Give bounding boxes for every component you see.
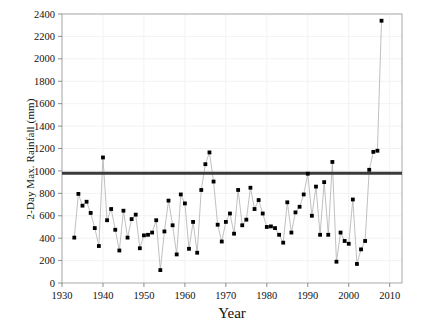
data-point-marker	[208, 151, 212, 155]
data-point-marker	[261, 212, 265, 216]
x-tick-label: 1980	[256, 290, 277, 301]
data-point-marker	[285, 200, 289, 204]
data-point-marker	[199, 188, 203, 192]
y-axis-ticks: 0200400600800100012001400160018002000220…	[34, 9, 62, 289]
data-point-marker	[138, 246, 142, 250]
data-point-marker	[224, 220, 228, 224]
data-point-marker	[351, 198, 355, 202]
data-point-marker	[318, 233, 322, 237]
data-point-marker	[376, 149, 380, 153]
data-point-marker	[359, 247, 363, 251]
data-point-marker	[171, 223, 175, 227]
data-point-marker	[113, 228, 117, 232]
x-tick-label: 2010	[379, 290, 400, 301]
data-point-markers	[72, 19, 383, 272]
data-point-marker	[76, 192, 80, 196]
grid-lines	[62, 14, 402, 283]
data-point-marker	[187, 247, 191, 251]
chart-figure: 2-Day Max. Rainfall (mm) Year 0200400600…	[0, 0, 428, 332]
data-point-marker	[183, 202, 187, 206]
data-point-marker	[273, 226, 277, 230]
data-point-marker	[93, 226, 97, 230]
data-point-marker	[134, 213, 138, 217]
data-point-marker	[244, 218, 248, 222]
data-point-marker	[314, 185, 318, 189]
data-point-marker	[146, 233, 150, 237]
data-point-marker	[220, 240, 224, 244]
data-point-marker	[265, 225, 269, 229]
y-tick-label: 1000	[34, 166, 55, 177]
data-point-marker	[253, 207, 257, 211]
data-point-marker	[150, 231, 154, 235]
data-point-marker	[302, 193, 306, 197]
data-point-marker	[72, 236, 76, 240]
data-point-marker	[216, 223, 220, 227]
x-tick-label: 1950	[133, 290, 154, 301]
y-tick-label: 0	[50, 278, 55, 289]
data-series-line	[74, 21, 381, 270]
series-polyline	[74, 21, 381, 270]
data-point-marker	[367, 168, 371, 172]
data-point-marker	[154, 218, 158, 222]
y-tick-label: 2000	[34, 53, 55, 64]
data-point-marker	[322, 180, 326, 184]
y-tick-label: 600	[39, 210, 55, 221]
x-tick-label: 1940	[92, 290, 113, 301]
data-point-marker	[294, 210, 298, 214]
y-tick-label: 1200	[34, 143, 55, 154]
data-point-marker	[380, 19, 384, 23]
data-point-marker	[335, 260, 339, 264]
data-point-marker	[290, 231, 294, 235]
data-point-marker	[97, 244, 101, 248]
x-tick-label: 1970	[215, 290, 236, 301]
data-point-marker	[310, 214, 314, 218]
data-point-marker	[158, 268, 162, 272]
data-point-marker	[326, 233, 330, 237]
data-point-marker	[240, 223, 244, 227]
data-point-marker	[175, 253, 179, 257]
data-point-marker	[105, 218, 109, 222]
data-point-marker	[89, 211, 93, 215]
x-tick-label: 2000	[338, 290, 359, 301]
data-point-marker	[179, 193, 183, 197]
data-point-marker	[122, 209, 126, 213]
rainfall-time-series-plot: 0200400600800100012001400160018002000220…	[0, 0, 428, 332]
data-point-marker	[130, 217, 134, 221]
x-axis-ticks: 193019401950196019701980199020002010	[52, 283, 401, 301]
data-point-marker	[281, 241, 285, 245]
data-point-marker	[203, 162, 207, 166]
x-tick-label: 1960	[174, 290, 195, 301]
data-point-marker	[339, 231, 343, 235]
data-point-marker	[142, 233, 146, 237]
y-tick-label: 1400	[34, 121, 55, 132]
data-point-marker	[81, 204, 85, 208]
data-point-marker	[363, 239, 367, 243]
data-point-marker	[101, 156, 105, 160]
data-point-marker	[167, 199, 171, 203]
data-point-marker	[347, 242, 351, 246]
data-point-marker	[117, 249, 121, 253]
data-point-marker	[236, 188, 240, 192]
data-point-marker	[371, 150, 375, 154]
data-point-marker	[249, 186, 253, 190]
data-point-marker	[277, 233, 281, 237]
x-tick-label: 1930	[52, 290, 73, 301]
data-point-marker	[232, 232, 236, 236]
data-point-marker	[191, 220, 195, 224]
data-point-marker	[195, 251, 199, 255]
data-point-marker	[298, 205, 302, 209]
data-point-marker	[212, 180, 216, 184]
y-tick-label: 1800	[34, 76, 55, 87]
data-point-marker	[126, 236, 130, 240]
y-tick-label: 2200	[34, 31, 55, 42]
y-tick-label: 2400	[34, 9, 55, 20]
data-point-marker	[355, 262, 359, 266]
data-point-marker	[109, 207, 113, 211]
data-point-marker	[228, 212, 232, 216]
data-point-marker	[257, 198, 261, 202]
y-tick-label: 400	[39, 233, 55, 244]
x-tick-label: 1990	[297, 290, 318, 301]
data-point-marker	[163, 230, 167, 234]
data-point-marker	[343, 239, 347, 243]
data-point-marker	[330, 160, 334, 164]
